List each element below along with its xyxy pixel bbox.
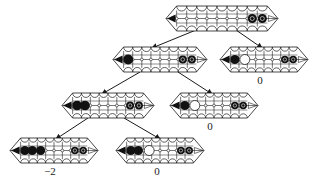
tree-edge-arrow <box>102 72 140 94</box>
tree-edge-arrow <box>152 30 196 48</box>
black-stone <box>230 55 239 64</box>
black-stone <box>231 102 239 110</box>
board-l2 <box>62 93 154 118</box>
white-stone-large <box>240 54 250 64</box>
board-root <box>166 6 278 31</box>
black-stone <box>180 101 189 110</box>
board-r1 <box>220 47 308 72</box>
board-r3 <box>116 138 204 163</box>
black-stone <box>179 55 187 63</box>
black-stone <box>188 55 196 63</box>
tree-edges <box>56 30 262 139</box>
board-positions <box>10 6 308 163</box>
black-stone <box>258 14 267 23</box>
tree-edge-arrow <box>236 30 262 48</box>
white-stone-large <box>144 145 154 155</box>
black-stone <box>134 146 143 155</box>
black-stone <box>36 146 45 155</box>
black-stone <box>289 56 297 64</box>
black-stone <box>71 147 79 155</box>
white-stone-large <box>190 100 200 110</box>
board-r2 <box>170 93 258 118</box>
black-stone <box>126 102 134 110</box>
board-l1 <box>113 47 207 72</box>
tree-edge-arrow <box>56 118 88 139</box>
black-stone <box>123 54 133 64</box>
evaluation-value-r2: 0 <box>207 120 213 132</box>
black-stone <box>177 147 185 155</box>
black-stone <box>135 102 143 110</box>
black-stone <box>28 146 37 155</box>
board-l3 <box>10 138 98 163</box>
black-stone <box>239 102 247 110</box>
tree-edge-arrow <box>178 72 212 94</box>
black-stone <box>248 14 257 23</box>
game-tree-diagram: 00−20 <box>0 0 310 179</box>
black-stone <box>80 101 90 111</box>
black-stone <box>79 147 87 155</box>
tree-edge-arrow <box>124 118 160 139</box>
black-stone <box>185 147 193 155</box>
black-stone <box>281 56 289 64</box>
evaluation-value-l3: −2 <box>44 165 56 177</box>
evaluation-value-r1: 0 <box>257 74 263 86</box>
evaluation-value-r3: 0 <box>154 165 160 177</box>
